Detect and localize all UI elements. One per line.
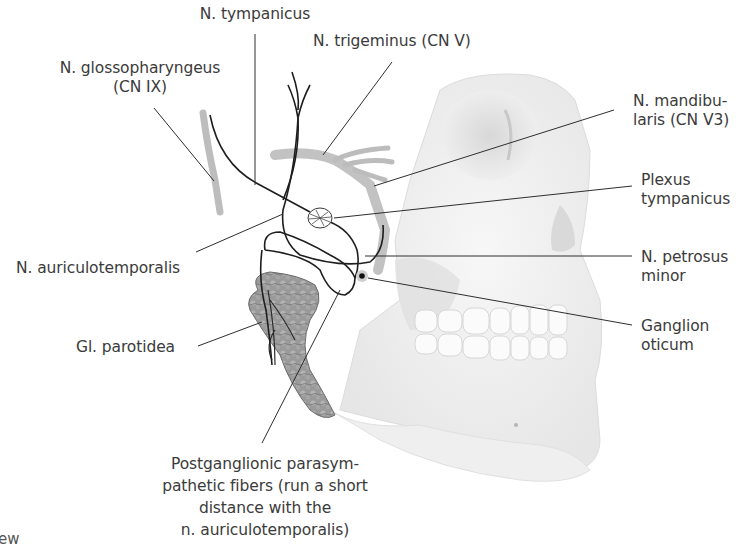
label-text: distance with the (110, 497, 420, 519)
label-n-tympanicus: N. tympanicus (180, 5, 330, 24)
skull (330, 74, 602, 481)
parotid-gland (249, 272, 335, 418)
tympanic-plexus (308, 208, 332, 228)
label-gl-parotidea: Gl. parotidea (76, 338, 175, 357)
label-text: oticum (641, 336, 709, 355)
label-n-trigeminus: N. trigeminus (CN V) (313, 32, 471, 51)
label-text: minor (641, 267, 728, 286)
label-text: N. tympanicus (180, 5, 330, 24)
label-text: (CN IX) (40, 78, 240, 97)
label-text: tympanicus (641, 190, 730, 209)
label-plexus-tympanicus: Plexus tympanicus (641, 171, 730, 209)
glossopharyngeal-nerve-trunk (203, 113, 220, 212)
label-text: n. auriculotemporalis) (110, 519, 420, 541)
label-text: N. glossopharyngeus (40, 59, 240, 78)
label-text: Postganglionic parasym- (110, 453, 420, 475)
label-text: N. petrosus (641, 248, 728, 267)
label-n-petrosus-minor: N. petrosus minor (641, 248, 728, 286)
label-text: Plexus (641, 171, 730, 190)
label-postganglionic-fibers: Postganglionic parasym- pathetic fibers … (110, 453, 420, 541)
label-text: pathetic fibers (run a short (110, 475, 420, 497)
label-text: N. mandibu- (633, 92, 729, 111)
label-n-glossopharyngeus: N. glossopharyngeus (CN IX) (40, 59, 240, 97)
label-text: Gl. parotidea (76, 338, 175, 357)
label-ganglion-oticum: Ganglion oticum (641, 317, 709, 355)
label-text: N. auriculotemporalis (16, 259, 180, 278)
label-n-mandibularis: N. mandibu- laris (CN V3) (633, 92, 729, 130)
label-text: laris (CN V3) (633, 111, 729, 130)
label-text: Ganglion (641, 317, 709, 336)
label-n-auriculotemporalis: N. auriculotemporalis (16, 259, 180, 278)
otic-ganglion (356, 270, 368, 282)
cropped-caption-fragment: ew (0, 530, 20, 546)
label-text: N. trigeminus (CN V) (313, 32, 471, 51)
